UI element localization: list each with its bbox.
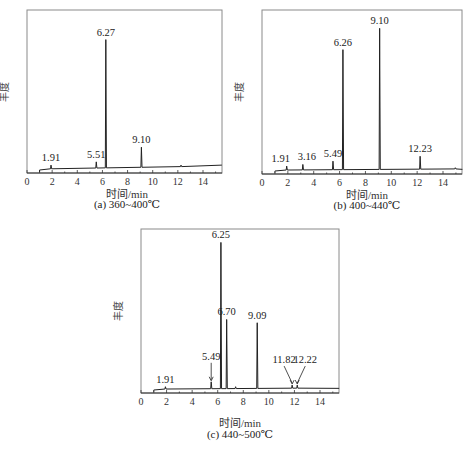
x-tick-label: 2 [164, 396, 169, 407]
peak-label: 5.49 [324, 148, 342, 159]
peak-label: 6.25 [212, 229, 230, 240]
chromatogram-a: 02468101214丰度1.915.516.279.10 [0, 0, 235, 175]
peak-label: 1.91 [42, 152, 60, 163]
chart-panel-c: 02468101214丰度1.915.496.256.709.0911.8212… [100, 220, 360, 449]
x-tick-label: 4 [190, 396, 195, 407]
plot-frame [262, 10, 462, 174]
x-tick-label: 0 [260, 177, 265, 188]
peak-label: 11.82 [273, 354, 296, 365]
x-tick-label: 6 [215, 396, 220, 407]
caption-c: (c) 440~500℃ [170, 428, 310, 441]
chart-panel-b: 02468101214丰度1.913.165.496.269.1012.23 时… [235, 0, 470, 210]
chromatogram-trace [40, 40, 222, 172]
x-tick-label: 2 [50, 176, 55, 187]
x-tick-label: 12 [289, 396, 299, 407]
chart-panel-a: 02468101214丰度1.915.516.279.10 时间/min (a)… [0, 0, 235, 200]
y-axis-label: 丰度 [0, 82, 10, 102]
x-tick-label: 10 [264, 396, 274, 407]
chromatogram-c: 02468101214丰度1.915.496.256.709.0911.8212… [100, 220, 360, 395]
peak-label: 9.10 [370, 15, 388, 26]
x-tick-label: 0 [139, 396, 144, 407]
chromatogram-trace [154, 242, 339, 392]
caption-b: (b) 400~440℃ [297, 199, 437, 212]
arrow-icon [297, 366, 305, 383]
arrow-icon [284, 366, 292, 383]
x-tick-label: 8 [241, 396, 246, 407]
x-tick-label: 14 [315, 396, 325, 407]
peak-label: 6.27 [97, 27, 115, 38]
peak-label: 1.91 [272, 153, 290, 164]
peak-label: 5.51 [87, 149, 105, 160]
x-tick-label: 0 [25, 176, 30, 187]
peak-label: 6.26 [334, 37, 352, 48]
peak-label: 3.16 [298, 151, 316, 162]
peak-label: 12.23 [408, 143, 432, 154]
arrow-head-icon [295, 380, 299, 384]
plot-frame [141, 229, 339, 393]
chromatogram-b: 02468101214丰度1.913.165.496.269.1012.23 [235, 0, 470, 176]
peak-label: 6.70 [217, 306, 235, 317]
peak-label: 9.10 [132, 134, 150, 145]
x-tick-label: 2 [285, 177, 290, 188]
x-tick-label: 14 [198, 176, 208, 187]
y-axis-label: 丰度 [112, 301, 124, 321]
plot-frame [27, 10, 222, 173]
x-tick-label: 14 [438, 177, 448, 188]
caption-a: (a) 360~400℃ [57, 198, 197, 211]
peak-label: 9.09 [248, 310, 266, 321]
peak-label: 12.22 [293, 354, 317, 365]
y-axis-label: 丰度 [233, 82, 245, 102]
peak-label: 5.49 [202, 351, 220, 362]
peak-label: 1.91 [156, 374, 174, 385]
arrow-head-icon [290, 380, 294, 384]
